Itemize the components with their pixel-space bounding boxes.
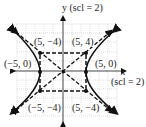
x-scale-label: (scl = 2) — [111, 77, 144, 87]
y-axis-label: y (scl = 2) — [62, 3, 103, 13]
point-label: (5, 0) — [95, 59, 117, 69]
point-label: (5, −4) — [34, 37, 61, 47]
point-label: (5, 4) — [72, 37, 94, 47]
point-label: (5, −4) — [72, 103, 99, 113]
point-label: (−5, −4) — [28, 103, 61, 113]
point-label: (−5, 0) — [4, 59, 31, 69]
